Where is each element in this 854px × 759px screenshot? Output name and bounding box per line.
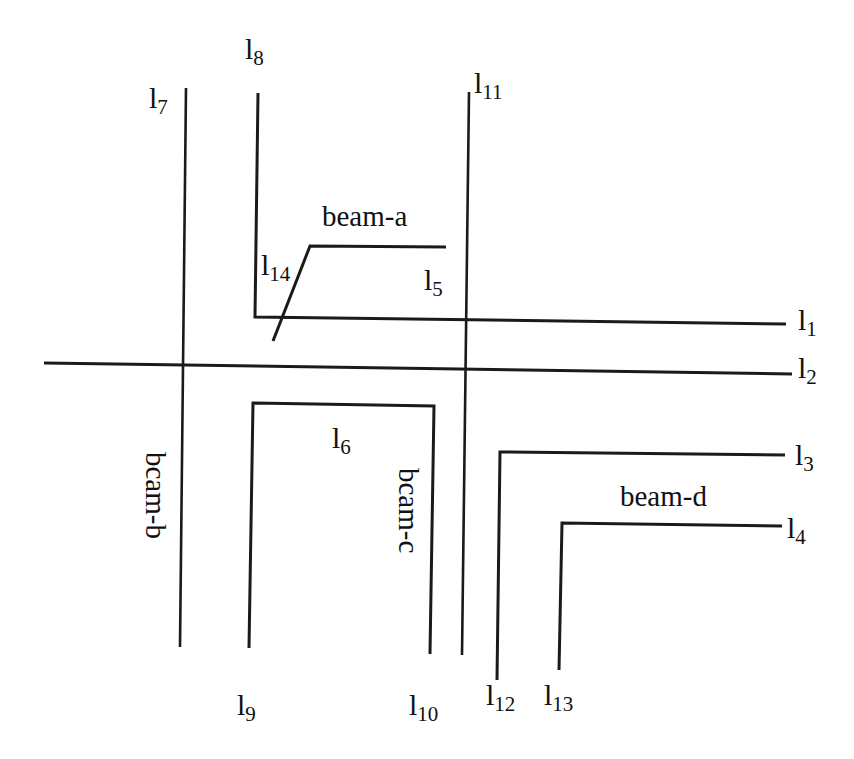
beam-diagram: l1 l2 l3 l4 l5 l6 l7 l8 l9 l10 l11 l12 l… — [0, 0, 854, 759]
line-l11 — [462, 92, 469, 655]
label-beam-d: beam-d — [620, 480, 707, 512]
label-beam-a: beam-a — [322, 200, 407, 232]
line-l2 — [44, 363, 792, 374]
label-l14: l14 — [261, 248, 291, 286]
label-l4: l4 — [787, 511, 806, 549]
label-l13: l13 — [544, 678, 573, 716]
label-l12: l12 — [486, 678, 515, 716]
label-l8: l8 — [245, 32, 264, 70]
label-l5: l5 — [424, 263, 443, 301]
line-l13-l4 — [559, 523, 782, 670]
line-l7 — [180, 88, 186, 647]
label-l10: l10 — [409, 688, 438, 726]
label-l11: l11 — [474, 66, 503, 104]
label-l7: l7 — [149, 81, 168, 119]
label-l3: l3 — [795, 438, 814, 476]
label-l1: l1 — [798, 303, 817, 341]
label-l6: l6 — [332, 421, 351, 459]
label-l2: l2 — [798, 351, 817, 389]
label-beam-c: bcam-c — [393, 468, 425, 553]
label-l9: l9 — [237, 688, 256, 726]
line-l14-l5 — [273, 246, 446, 341]
label-beam-b: bcam-b — [140, 452, 172, 539]
